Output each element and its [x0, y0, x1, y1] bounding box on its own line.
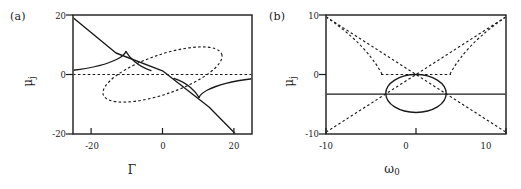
panel-a-curve-lower-right-hyperbolic [199, 79, 252, 98]
figure-root: (a) μj Γ 20 0 -20 -20 0 20 [0, 0, 521, 189]
panel-b-plot [261, 0, 521, 189]
panel-b-curve-left-hyperbolic-dashed [326, 17, 382, 74]
panel-a-curves [60, 7, 252, 141]
panel-b-curves [326, 17, 506, 132]
panel-a: (a) μj Γ 20 0 -20 -20 0 20 [0, 0, 261, 189]
panel-b-curve-right-hyperbolic-dashed [450, 17, 506, 74]
panel-b: (b) μj ω0 10 0 -10 -10 0 10 [261, 0, 521, 189]
panel-a-plot [0, 0, 261, 189]
